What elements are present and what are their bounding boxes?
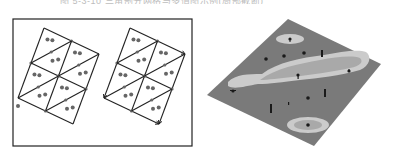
sample-point xyxy=(118,73,122,77)
sample-point xyxy=(151,107,155,111)
surface-plot-figure xyxy=(200,0,396,156)
sample-point xyxy=(37,73,41,77)
sample-point xyxy=(164,72,168,76)
sample-point xyxy=(32,73,36,77)
surface-plot-svg xyxy=(200,0,396,156)
sample-point xyxy=(51,59,55,63)
sample-point xyxy=(56,57,60,61)
edge-node xyxy=(37,85,40,88)
edge-node xyxy=(64,98,67,101)
sample-point xyxy=(129,92,133,96)
sample-point xyxy=(78,72,82,76)
edge-node xyxy=(163,63,166,66)
sample-point xyxy=(151,86,155,90)
sample-point xyxy=(123,73,127,77)
sample-point xyxy=(71,105,75,109)
sample-point xyxy=(43,92,47,96)
sample-point xyxy=(137,59,141,63)
sample-point xyxy=(124,94,128,98)
sample-point xyxy=(60,86,64,90)
sample-point xyxy=(157,105,161,109)
edge-node xyxy=(50,50,53,53)
sample-point xyxy=(78,51,82,55)
triangulated-grid-svg xyxy=(0,0,200,156)
edge-node xyxy=(150,98,153,101)
sample-point xyxy=(131,38,135,42)
edge-node xyxy=(77,63,80,66)
outlier-point xyxy=(16,104,20,108)
triangulated-grid-figure xyxy=(0,0,200,156)
sample-point xyxy=(38,94,42,98)
sample-point xyxy=(146,86,150,90)
sample-point xyxy=(50,38,54,42)
sample-point xyxy=(45,38,49,42)
edge-node xyxy=(123,85,126,88)
sample-point xyxy=(164,51,168,55)
sample-point xyxy=(170,70,174,74)
edge-node xyxy=(136,50,139,53)
sample-point xyxy=(136,38,140,42)
sample-point xyxy=(73,51,77,55)
grid-a xyxy=(18,28,99,124)
sample-point xyxy=(142,57,146,61)
grid-b xyxy=(103,28,185,124)
sample-point xyxy=(84,70,88,74)
sample-point xyxy=(65,86,69,90)
sample-point xyxy=(159,51,163,55)
sample-point xyxy=(65,107,69,111)
